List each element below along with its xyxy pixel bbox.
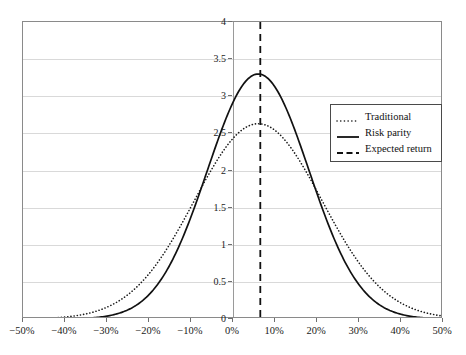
- y-tick-mark: [228, 244, 232, 245]
- y-tick-mark: [228, 207, 232, 208]
- y-tick-label: 4: [198, 16, 226, 27]
- x-tick-mark: [64, 318, 65, 322]
- y-tick-label: 1: [198, 238, 226, 249]
- legend-item-risk-parity: Risk parity: [336, 125, 436, 141]
- legend-label-traditional: Traditional: [365, 112, 411, 123]
- y-tick-label: 2.5: [198, 127, 226, 138]
- y-tick-label: 1.5: [198, 201, 226, 212]
- legend-label-expected-return: Expected return: [365, 144, 432, 155]
- x-tick-label: 30%: [348, 325, 367, 336]
- x-tick-mark: [442, 318, 443, 322]
- y-tick-mark: [228, 58, 232, 59]
- x-tick-mark: [274, 318, 275, 322]
- x-tick-label: −30%: [93, 325, 118, 336]
- x-tick-mark: [190, 318, 191, 322]
- legend-swatch-solid-icon: [336, 128, 360, 138]
- x-tick-label: 0%: [225, 325, 239, 336]
- y-tick-mark: [228, 21, 232, 22]
- x-tick-mark: [106, 318, 107, 322]
- x-tick-mark: [400, 318, 401, 322]
- chart-legend: Traditional Risk parity Expected return: [330, 104, 442, 162]
- y-tick-label: 3.5: [198, 53, 226, 64]
- x-tick-label: −40%: [51, 325, 76, 336]
- plot-frame: [22, 21, 442, 318]
- x-tick-label: 10%: [264, 325, 283, 336]
- legend-swatch-dashed-icon: [336, 144, 360, 154]
- legend-item-expected-return: Expected return: [336, 141, 436, 157]
- x-tick-mark: [22, 318, 23, 322]
- legend-swatch-dotted-icon: [336, 112, 360, 122]
- x-tick-label: 20%: [306, 325, 325, 336]
- x-tick-mark: [148, 318, 149, 322]
- legend-label-risk-parity: Risk parity: [365, 128, 411, 139]
- x-tick-label: 40%: [390, 325, 409, 336]
- x-tick-label: 50%: [432, 325, 451, 336]
- x-tick-label: −20%: [135, 325, 160, 336]
- y-tick-mark: [228, 170, 232, 171]
- x-tick-label: −10%: [177, 325, 202, 336]
- y-tick-label: 2: [198, 164, 226, 175]
- plot-area: [23, 22, 441, 317]
- x-tick-label: −50%: [9, 325, 34, 336]
- x-tick-mark: [316, 318, 317, 322]
- curves-layer: [23, 22, 441, 317]
- chart-page: 00.511.522.533.54 −50%−40%−30%−20%−10%0%…: [0, 0, 466, 355]
- y-tick-label: 3: [198, 90, 226, 101]
- y-tick-mark: [228, 281, 232, 282]
- x-tick-mark: [232, 318, 233, 322]
- x-tick-mark: [358, 318, 359, 322]
- legend-item-traditional: Traditional: [336, 109, 436, 125]
- y-tick-label: 0.5: [198, 275, 226, 286]
- y-tick-mark: [228, 132, 232, 133]
- y-tick-label: 0: [198, 313, 226, 324]
- y-tick-mark: [228, 95, 232, 96]
